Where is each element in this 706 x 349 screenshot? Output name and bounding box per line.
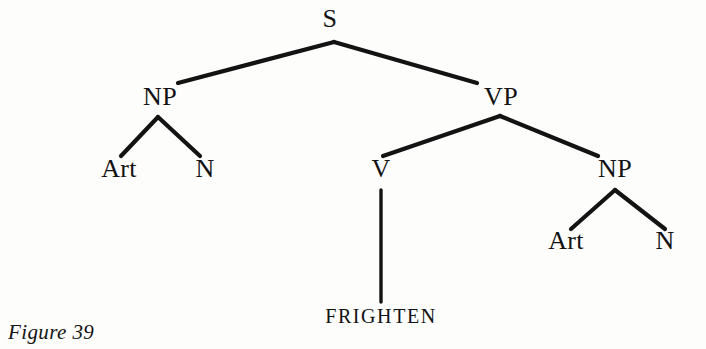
- tree-node-s: S: [323, 6, 338, 32]
- tree-node-vp: VP: [484, 84, 518, 110]
- tree-edge-s-np1: [178, 42, 334, 83]
- tree-node-n2: N: [655, 228, 674, 254]
- figure-caption: Figure 39: [8, 322, 94, 343]
- tree-node-np2: NP: [598, 156, 632, 182]
- tree-edge-np1-art: [121, 117, 158, 156]
- figure-canvas: SNPVPArtNVNPArtNFRIGHTEN Figure 39: [0, 0, 706, 349]
- tree-node-art2: Art: [548, 228, 584, 254]
- tree-node-n1: N: [195, 156, 214, 182]
- tree-edge-vp-np2: [500, 116, 598, 156]
- tree-edge-s-vp: [334, 42, 477, 83]
- tree-node-v: V: [371, 156, 390, 182]
- tree-node-art1: Art: [101, 156, 137, 182]
- tree-terminal-frighten: FRIGHTEN: [325, 306, 437, 326]
- tree-edge-vp-v: [383, 116, 500, 156]
- tree-node-np1: NP: [143, 84, 177, 110]
- tree-edge-np2-n: [615, 190, 665, 229]
- tree-edge-np1-n: [158, 117, 200, 156]
- tree-edge-np2-art: [571, 190, 615, 229]
